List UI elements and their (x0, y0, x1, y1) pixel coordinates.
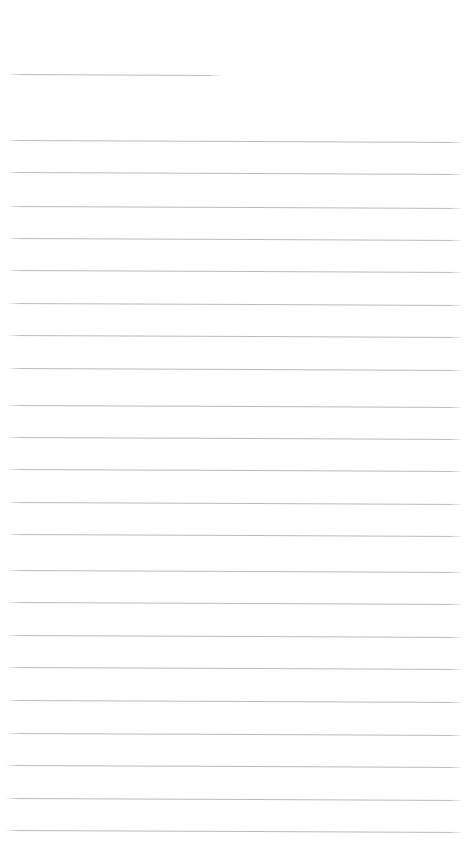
rule-line (7, 469, 463, 472)
rule-line (7, 238, 463, 241)
rule-line (6, 602, 463, 605)
rule-line (7, 368, 463, 371)
rule-line (7, 172, 463, 175)
header-rule-line (8, 74, 222, 76)
rule-line (7, 270, 463, 273)
rule-line (6, 733, 463, 736)
rule-line (5, 830, 463, 833)
rule-line (6, 570, 463, 573)
rule-line (7, 335, 463, 338)
rule-line (6, 667, 463, 670)
ruled-page (0, 0, 466, 864)
rule-line (7, 437, 463, 440)
rule-line (7, 502, 463, 505)
rule-line (6, 700, 463, 703)
rule-line (7, 140, 463, 143)
writing-area[interactable] (0, 0, 466, 864)
rule-line (7, 303, 463, 306)
rule-line (7, 405, 463, 408)
rule-line (6, 635, 463, 638)
rule-line (5, 798, 463, 801)
rule-line (5, 765, 463, 768)
rule-line (7, 534, 463, 537)
rule-line (7, 206, 463, 209)
